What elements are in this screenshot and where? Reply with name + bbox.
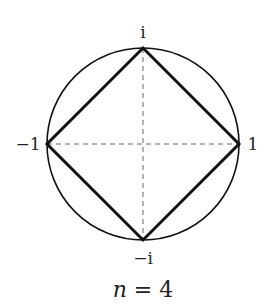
label-neg-1: −1 — [15, 134, 40, 154]
caption-variable: n — [113, 277, 127, 302]
roots-of-unity-diagram: i −i −1 1 n = 4 — [0, 0, 273, 304]
caption-equals: = — [127, 277, 159, 302]
caption-value: 4 — [159, 277, 173, 302]
label-i: i — [140, 22, 146, 42]
label-1: 1 — [248, 134, 259, 154]
caption: n = 4 — [113, 277, 174, 302]
label-neg-i: −i — [133, 248, 153, 268]
